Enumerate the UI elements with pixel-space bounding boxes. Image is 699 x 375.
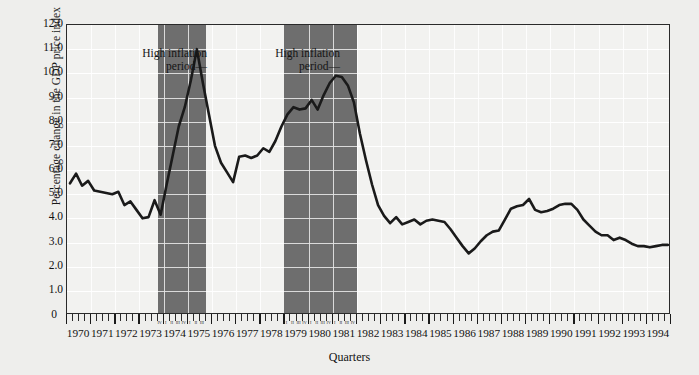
y-axis-tick-label: 1.0 — [23, 284, 63, 296]
y-axis-tick-label: 10.0 — [23, 67, 63, 79]
y-axis-tick-label: 3.0 — [23, 236, 63, 248]
x-axis-quarter-label: IV — [351, 320, 355, 325]
x-axis-quarter-label: II — [194, 320, 197, 325]
x-axis-year-label: 1988 — [502, 327, 525, 339]
y-axis-tick-label: 7.0 — [23, 139, 63, 151]
x-axis-quarter-label: III — [321, 320, 325, 325]
x-axis-year-label: 1981 — [333, 327, 356, 339]
x-axis-year-label: 1979 — [284, 327, 307, 339]
x-axis-title: Quarters — [0, 350, 699, 365]
x-axis-quarter-label: II — [339, 320, 342, 325]
y-axis-tick-label: 5.0 — [23, 187, 63, 199]
x-axis-year-label: 1976 — [212, 327, 235, 339]
x-axis-year-label: 1970 — [67, 327, 90, 339]
x-axis-year-label: 1978 — [260, 327, 283, 339]
x-axis-quarter-label: IV — [157, 320, 161, 325]
x-axis-quarter-label: III — [296, 320, 300, 325]
x-axis-year-label: 1990 — [550, 327, 573, 339]
x-axis-year-label: 1983 — [381, 327, 404, 339]
annotation-line-1: High inflation — [142, 47, 207, 59]
x-axis-quarter-label: I — [334, 320, 335, 325]
y-axis-zero-label: 0 — [17, 308, 57, 320]
annotation-high-inflation-2: High inflation period— — [222, 47, 340, 73]
y-axis-tick-label: 12.0 — [23, 18, 63, 30]
annotation-line-2: period— — [89, 60, 207, 73]
annotation-line-1: High inflation — [275, 47, 340, 59]
x-axis-year-label: 1989 — [526, 327, 549, 339]
plot-area: High inflation period— High inflation pe… — [66, 24, 670, 314]
x-axis-year-label: 1973 — [139, 327, 162, 339]
chart-figure: Percentage change in the GDP price index… — [0, 0, 699, 375]
y-axis-tick-label: 4.0 — [23, 212, 63, 224]
y-axis-tick-label: 6.0 — [23, 163, 63, 175]
x-axis-year-label: 1977 — [236, 327, 259, 339]
x-axis-quarter-label: II — [315, 320, 318, 325]
x-axis-year-label: 1993 — [622, 327, 645, 339]
x-axis-year-label: 1971 — [91, 327, 114, 339]
x-axis-quarter-label: III — [176, 320, 180, 325]
annotation-line-2: period— — [222, 60, 340, 73]
x-axis-quarter-label: IV — [302, 320, 306, 325]
x-axis-quarter-label: I — [310, 320, 311, 325]
x-axis-quarter-label: IV — [327, 320, 331, 325]
x-axis-year-label: 1994 — [647, 327, 670, 339]
x-axis-tick-major — [670, 314, 671, 324]
y-axis-tick-label: 11.0 — [23, 42, 63, 54]
x-axis-quarter-label: IV — [182, 320, 186, 325]
x-axis-quarter-label: I — [165, 320, 166, 325]
x-axis-quarter-label: I — [286, 320, 287, 325]
x-axis-year-label: 1987 — [478, 327, 501, 339]
gdp-price-index-line — [70, 49, 668, 253]
x-axis-year-label: 1984 — [405, 327, 428, 339]
x-axis-year-label: 1982 — [357, 327, 380, 339]
x-axis-year-label: 1975 — [188, 327, 211, 339]
x-axis-quarter-label: II — [291, 320, 294, 325]
x-axis-quarter-label: II — [170, 320, 173, 325]
x-axis-year-label: 1985 — [429, 327, 452, 339]
x-axis-year-label: 1972 — [115, 327, 138, 339]
x-axis-quarter-label: III — [200, 320, 204, 325]
y-axis-tick-label: 2.0 — [23, 260, 63, 272]
x-axis-quarter-label: III — [345, 320, 349, 325]
x-axis-year-label: 1992 — [598, 327, 621, 339]
annotation-high-inflation-1: High inflation period— — [89, 47, 207, 73]
x-axis-quarter-label: I — [189, 320, 190, 325]
x-axis-year-label: 1991 — [574, 327, 597, 339]
y-axis-tick-label: 9.0 — [23, 91, 63, 103]
y-axis-tick-label: 8.0 — [23, 115, 63, 127]
x-axis-year-label: 1974 — [163, 327, 186, 339]
x-axis-year-label: 1980 — [308, 327, 331, 339]
x-axis-year-labels: 1970197119721973197419751976197719781979… — [0, 327, 699, 343]
x-axis-year-label: 1986 — [453, 327, 476, 339]
